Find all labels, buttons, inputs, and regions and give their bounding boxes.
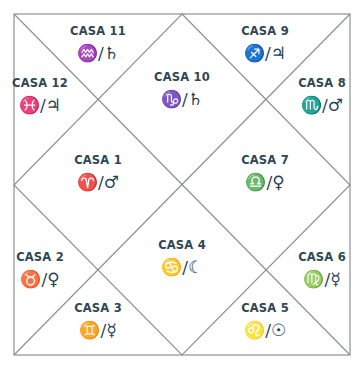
house-9: CASA 9 ♐/♃: [241, 24, 289, 63]
house-label: CASA 5: [241, 301, 289, 315]
house-label: CASA 7: [241, 153, 289, 167]
house-8: CASA 8 ♏/♂: [298, 76, 346, 115]
cancer-moon-icon: ♋/☾: [158, 257, 206, 277]
house-label: CASA 3: [74, 301, 122, 315]
house-10: CASA 10 ♑/♄: [154, 70, 210, 109]
house-label: CASA 6: [298, 250, 346, 264]
house-4: CASA 4 ♋/☾: [158, 238, 206, 277]
libra-venus-icon: ♎/♀: [241, 172, 289, 192]
house-label: CASA 12: [12, 76, 68, 90]
house-6: CASA 6 ♍/☿: [298, 250, 346, 289]
house-label: CASA 2: [16, 250, 64, 264]
house-label: CASA 10: [154, 70, 210, 84]
aquarius-saturn-icon: ♒/♄: [70, 43, 126, 63]
house-7: CASA 7 ♎/♀: [241, 153, 289, 192]
house-12: CASA 12 ♓/♃: [12, 76, 68, 115]
taurus-venus-icon: ♉/♀: [16, 269, 64, 289]
leo-sun-icon: ♌/☉: [241, 320, 289, 340]
birth-chart-grid: [0, 0, 363, 369]
house-5: CASA 5 ♌/☉: [241, 301, 289, 340]
house-label: CASA 1: [74, 153, 122, 167]
scorpio-mars-icon: ♏/♂: [298, 95, 346, 115]
house-1: CASA 1 ♈/♂: [74, 153, 122, 192]
gemini-mercury-icon: ♊/☿: [74, 320, 122, 340]
house-2: CASA 2 ♉/♀: [16, 250, 64, 289]
house-label: CASA 9: [241, 24, 289, 38]
house-11: CASA 11 ♒/♄: [70, 24, 126, 63]
aries-mars-icon: ♈/♂: [74, 172, 122, 192]
pisces-jupiter-icon: ♓/♃: [12, 95, 68, 115]
house-label: CASA 4: [158, 238, 206, 252]
sagittarius-jupiter-icon: ♐/♃: [241, 43, 289, 63]
house-label: CASA 8: [298, 76, 346, 90]
capricorn-saturn-icon: ♑/♄: [154, 89, 210, 109]
virgo-mercury-icon: ♍/☿: [298, 269, 346, 289]
house-label: CASA 11: [70, 24, 126, 38]
house-3: CASA 3 ♊/☿: [74, 301, 122, 340]
